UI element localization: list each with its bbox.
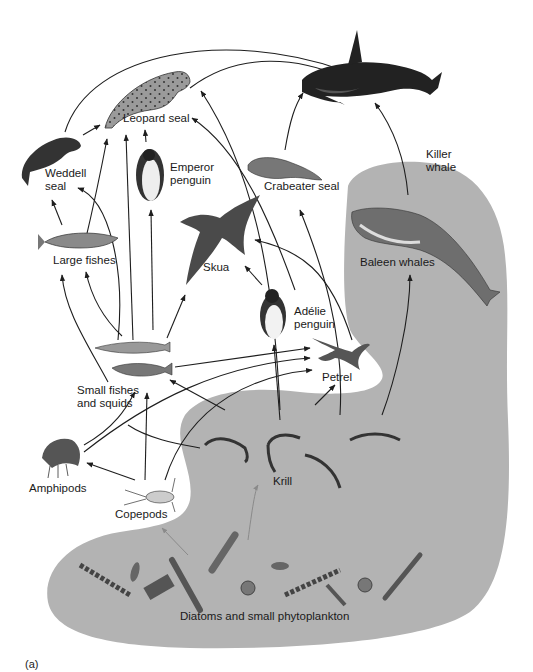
label-line: penguin [294,318,335,331]
label-copepods: Copepods [115,508,167,521]
label-amphipods: Amphipods [29,482,87,495]
label-large-fishes: Large fishes [53,254,116,267]
fish-squid-icon [95,342,172,376]
label-line: Killer [426,148,456,161]
label-line: penguin [170,174,214,187]
label-line: Large fishes [53,254,116,267]
label-skua: Skua [203,261,229,274]
label-phytoplankton: Diatoms and small phytoplankton [180,610,349,623]
label-line: Diatoms and small phytoplankton [180,610,349,623]
copepod-icon [124,478,175,512]
label-line: Emperor [170,161,214,174]
label-leopard-seal: Leopard seal [123,112,190,125]
food-web-diagram [0,0,533,672]
label-line: Krill [273,475,292,488]
amphipod-icon [42,439,80,478]
seal-icon [248,158,322,180]
label-petrel: Petrel [322,371,352,384]
fish-icon [38,233,118,250]
label-line: Adélie [294,305,335,318]
label-line: Copepods [115,508,167,521]
label-line: Weddell [45,167,86,180]
label-line: Small fishes [77,384,139,397]
label-line: Baleen whales [360,256,435,269]
label-adelie-penguin: Adélie penguin [294,305,335,331]
label-killer-whale: Killer whale [426,148,456,174]
penguin-icon [136,149,164,201]
label-crabeater-seal: Crabeater seal [264,180,339,193]
label-line: Crabeater seal [264,180,339,193]
label-line: Petrel [322,371,352,384]
label-line: and squids [77,397,139,410]
penguin-icon [260,289,286,339]
label-line: Leopard seal [123,112,190,125]
label-small-fishes-squids: Small fishes and squids [77,384,139,410]
label-line: whale [426,161,456,174]
panel-label: (a) [25,658,38,670]
label-line: seal [45,180,86,193]
label-weddell-seal: Weddell seal [45,167,86,193]
label-line: Amphipods [29,482,87,495]
label-baleen-whales: Baleen whales [360,256,435,269]
label-krill: Krill [273,475,292,488]
label-line: Skua [203,261,229,274]
label-emperor-penguin: Emperor penguin [170,161,214,187]
orca-icon [302,30,442,105]
